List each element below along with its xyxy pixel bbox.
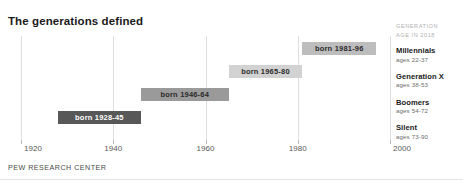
gridline-2000 (390, 36, 391, 140)
tick-label-1920: 1920 (24, 144, 42, 153)
tick-mark-2000 (390, 140, 391, 144)
legend-item-boomers[interactable]: Boomersages 54-72 (396, 98, 460, 116)
legend-item-ages: ages 54-72 (396, 107, 460, 116)
gridline-1920 (21, 36, 22, 140)
legend-header-line-2: AGE IN 2018 (396, 31, 460, 40)
bar-millennials[interactable]: born 1981-96 (302, 42, 376, 55)
legend-header: GENERATION AGE IN 2018 (396, 22, 460, 39)
legend-item-ages: ages 22-37 (396, 56, 460, 65)
legend-item-name: Millennials (396, 46, 460, 55)
bar-label: born 1928-45 (75, 114, 124, 122)
bar-label: born 1965-80 (241, 68, 290, 76)
bar-boomers[interactable]: born 1946-64 (141, 88, 229, 101)
legend-item-ages: ages 38-53 (396, 81, 460, 90)
legend-header-line-1: GENERATION (396, 22, 460, 31)
legend-item-name: Silent (396, 123, 460, 132)
page-title: The generations defined (8, 15, 143, 27)
bar-label: born 1946-64 (160, 91, 209, 99)
legend-item-silent[interactable]: Silentages 73-90 (396, 123, 460, 141)
x-axis: 19201940196019802000 (0, 140, 463, 156)
gridline-1980 (298, 36, 299, 140)
tick-label-1940: 1940 (104, 144, 122, 153)
tick-label-1960: 1960 (197, 144, 215, 153)
legend-items: Millennialsages 22-37Generation Xages 38… (396, 46, 460, 141)
generations-chart: The generations defined born 1981-96born… (0, 0, 463, 186)
tick-label-1980: 1980 (289, 144, 307, 153)
legend-item-generation-x[interactable]: Generation Xages 38-53 (396, 72, 460, 90)
legend-item-millennials[interactable]: Millennialsages 22-37 (396, 46, 460, 64)
bar-label: born 1981-96 (315, 45, 364, 53)
legend-item-ages: ages 73-90 (396, 133, 460, 142)
legend-item-name: Generation X (396, 72, 460, 81)
tick-mark-1920 (21, 140, 22, 144)
plot-area: born 1981-96born 1965-80born 1946-64born… (0, 36, 463, 140)
gridline-1940 (113, 36, 114, 140)
source-note: PEW RESEARCH CENTER (8, 163, 106, 172)
legend-item-name: Boomers (396, 98, 460, 107)
footer-divider (8, 158, 455, 159)
bar-silent[interactable]: born 1928-45 (58, 111, 141, 124)
legend: GENERATION AGE IN 2018 Millennialsages 2… (396, 22, 460, 149)
bar-generation-x[interactable]: born 1965-80 (229, 65, 303, 78)
bottom-rule (0, 179, 463, 180)
